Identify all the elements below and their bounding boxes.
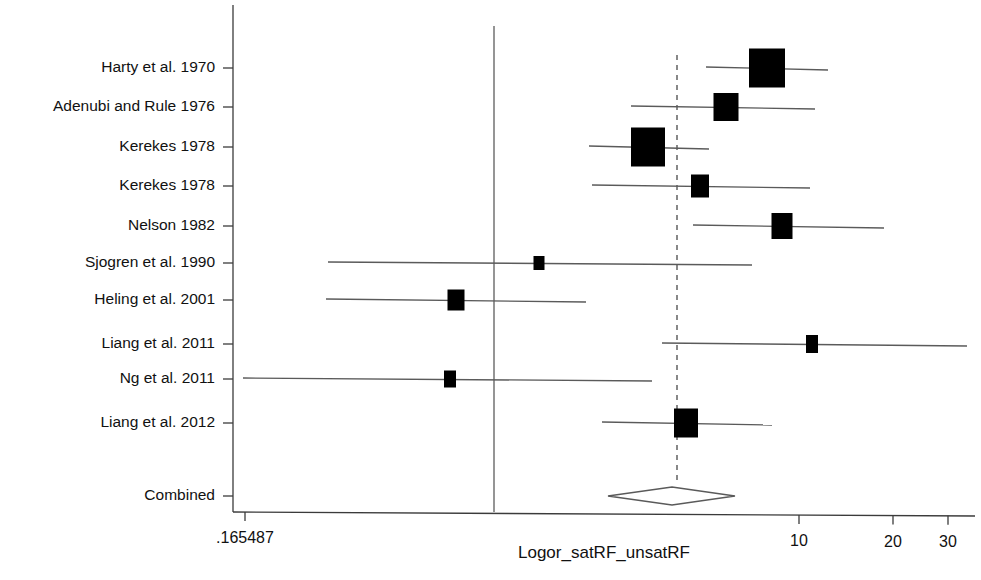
study-marker-9 (674, 409, 698, 438)
study-marker-5 (534, 256, 545, 270)
study-label-8: Ng et al. 2011 (120, 369, 215, 386)
study-label-5: Sjogren et al. 1990 (85, 253, 216, 270)
study-marker-2 (631, 128, 665, 167)
x-tick-label-0: .165487 (216, 529, 274, 546)
study-marker-3 (691, 175, 709, 198)
study-marker-0 (749, 49, 785, 88)
study-label-1: Adenubi and Rule 1976 (53, 97, 215, 114)
study-label-4: Nelson 1982 (128, 216, 215, 233)
study-marker-6 (448, 290, 465, 311)
forest-plot-canvas: Harty et al. 1970Adenubi and Rule 1976Ke… (0, 0, 981, 580)
axes-group (223, 5, 975, 525)
reference-lines-group (494, 26, 677, 512)
x-tick-label-1: 10 (790, 532, 808, 549)
study-label-9: Liang et al. 2012 (100, 413, 215, 430)
study-label-3: Kerekes 1978 (119, 176, 215, 193)
x-axis-line (233, 512, 975, 516)
study-label-2: Kerekes 1978 (119, 137, 215, 154)
study-marker-group (444, 49, 818, 438)
study-marker-7 (806, 335, 818, 353)
x-tick-label-2: 20 (884, 533, 902, 550)
study-marker-8 (444, 371, 456, 388)
confidence-interval-group (243, 67, 967, 425)
study-label-7: Liang et al. 2011 (102, 334, 215, 351)
study-label-6: Heling et al. 2001 (94, 290, 215, 307)
x-tick-label-3: 30 (939, 533, 957, 550)
x-axis-title: Logor_satRF_unsatRF (518, 543, 690, 562)
forest-plot-figure: Harty et al. 1970Adenubi and Rule 1976Ke… (0, 0, 981, 580)
study-marker-1 (714, 93, 739, 121)
combined-effect-diamond (608, 487, 735, 505)
study-label-combined: Combined (144, 486, 215, 503)
study-marker-4 (772, 213, 793, 239)
combined-diamond-group (608, 487, 735, 505)
study-label-0: Harty et al. 1970 (101, 58, 215, 75)
study-label-group: Harty et al. 1970Adenubi and Rule 1976Ke… (53, 58, 215, 503)
